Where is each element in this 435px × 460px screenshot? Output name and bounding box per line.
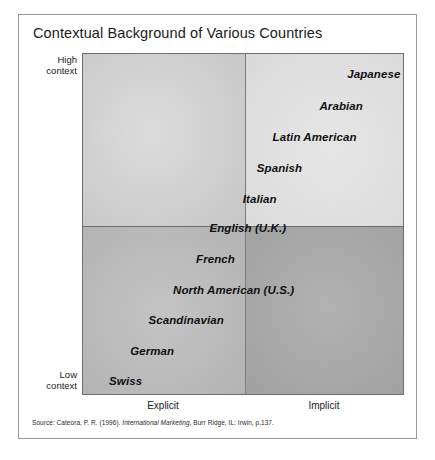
figure-frame: Contextual Background of Various Countri… — [18, 14, 417, 439]
source-suffix: , Burr Ridge, IL: Irwin, p.137. — [190, 419, 274, 426]
data-point-label: Italian — [243, 193, 277, 205]
quadrant-top-left — [83, 54, 245, 226]
data-point-label: Japanese — [347, 68, 400, 80]
data-point-label: North American (U.S.) — [173, 284, 294, 296]
quadrant-plot-area: Japanese Arabian Latin American Spanish … — [82, 53, 404, 395]
data-point-label: French — [196, 253, 235, 265]
x-axis-explicit-label: Explicit — [82, 400, 244, 411]
y-axis-high-label: High context — [27, 55, 77, 76]
data-point-label: German — [130, 345, 174, 357]
data-point-label: Scandinavian — [148, 314, 223, 326]
x-axis-implicit-label: Implicit — [244, 400, 404, 411]
quadrant-bottom-left — [83, 226, 245, 394]
data-point-label: English (U.K.) — [209, 222, 286, 234]
quadrant-bottom-right — [245, 226, 403, 394]
y-axis-low-label: Low context — [27, 370, 77, 391]
data-point-label: Latin American — [273, 131, 357, 143]
page-title: Contextual Background of Various Countri… — [33, 25, 322, 41]
source-prefix: Source: Cateora, P. R. (1996). — [32, 419, 122, 426]
source-title: International Marketing — [122, 419, 189, 426]
source-citation: Source: Cateora, P. R. (1996). Internati… — [32, 419, 274, 426]
data-point-label: Swiss — [109, 375, 142, 387]
data-point-label: Arabian — [319, 100, 363, 112]
data-point-label: Spanish — [257, 162, 302, 174]
